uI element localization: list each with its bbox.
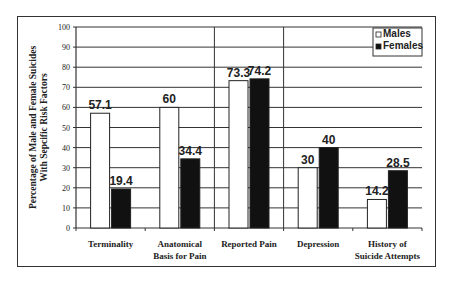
value-label: 30 <box>301 153 315 167</box>
y-tick-label: 90 <box>62 43 70 52</box>
female-bar <box>181 159 200 228</box>
male-bar <box>298 168 317 228</box>
category-label: Basis for Pain <box>153 251 206 261</box>
value-label: 74.2 <box>248 64 272 78</box>
y-tick-label: 30 <box>62 164 70 173</box>
y-tick-label: 60 <box>62 103 70 112</box>
value-label: 60 <box>163 92 177 106</box>
legend-label: Females <box>383 40 423 51</box>
male-bar <box>367 199 386 228</box>
y-tick-label: 70 <box>62 83 70 92</box>
y-tick-label: 80 <box>62 63 70 72</box>
female-legend-swatch <box>376 44 381 49</box>
y-tick-label: 20 <box>62 184 70 193</box>
male-bar <box>229 81 248 228</box>
male-bar <box>160 107 179 228</box>
category-label: Depression <box>297 239 339 249</box>
value-label: 40 <box>322 133 336 147</box>
category-label: History of <box>368 239 408 249</box>
value-label: 34.4 <box>179 144 203 158</box>
female-bar <box>319 148 338 228</box>
category-label: Anatomical <box>158 239 203 249</box>
category-label: Reported Pain <box>221 239 277 249</box>
male-bar <box>91 113 110 228</box>
y-axis-label: Percentage of Male and Female Suicides <box>28 46 38 209</box>
value-label: 19.4 <box>109 174 133 188</box>
y-tick-label: 40 <box>62 144 70 153</box>
legend-label: Males <box>383 28 411 39</box>
value-label: 14.2 <box>365 184 389 198</box>
female-bar <box>250 79 269 228</box>
female-bar <box>388 171 407 228</box>
y-tick-label: 10 <box>62 204 70 213</box>
value-label: 57.1 <box>88 98 112 112</box>
category-label: Terminality <box>88 239 134 249</box>
male-legend-swatch <box>376 32 381 37</box>
value-label: 28.5 <box>386 156 410 170</box>
y-axis-label: With Sepcific Risk Factors <box>39 73 49 182</box>
category-label: Suicide Attempts <box>355 251 421 261</box>
female-bar <box>112 189 131 228</box>
y-tick-label: 50 <box>62 124 70 133</box>
y-tick-label: 0 <box>66 224 70 233</box>
bar-chart: 010203040506070809010057.119.4Terminalit… <box>0 0 451 287</box>
y-tick-label: 100 <box>58 23 70 32</box>
